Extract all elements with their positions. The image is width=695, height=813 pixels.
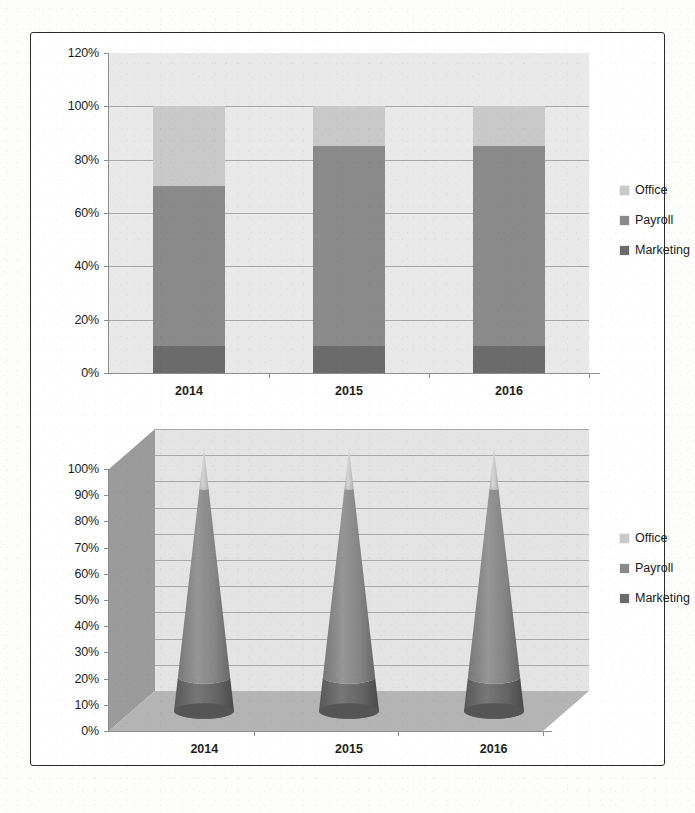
segment-payroll-2014[interactable] [153, 186, 225, 346]
legend-item-label: Payroll [635, 561, 673, 575]
legend-swatch-icon [619, 185, 630, 196]
x-axis-line [108, 373, 600, 374]
y-axis-tick-label: 0% [31, 724, 99, 738]
legend-item-label: Payroll [635, 213, 673, 227]
x-axis-tickmark [254, 731, 255, 736]
y-axis-line [108, 53, 109, 373]
legend-item-office[interactable]: Office [619, 531, 690, 545]
x-axis-tickmark [398, 731, 399, 736]
cone-2015[interactable] [319, 449, 379, 725]
legend-item-label: Office [635, 183, 667, 197]
legend-item-label: Marketing [635, 243, 690, 257]
y-axis-tick-label: 70% [31, 541, 99, 555]
y-axis-tick-label: 80% [31, 153, 99, 167]
y-axis-tick-label: 60% [31, 206, 99, 220]
legend-item-label: Marketing [635, 591, 690, 605]
y-axis-tick-label: 120% [31, 46, 99, 60]
column-2016[interactable] [473, 53, 545, 373]
legend-item-payroll[interactable]: Payroll [619, 213, 690, 227]
x-axis-tickmark [543, 731, 544, 736]
cone-2016[interactable] [464, 449, 524, 725]
y-axis-tick-label: 30% [31, 645, 99, 659]
legend-swatch-icon [619, 245, 630, 256]
segment-payroll-2015[interactable] [313, 146, 385, 346]
x-axis-tickmark [429, 373, 430, 378]
y-axis-tick-label: 20% [31, 672, 99, 686]
legend-item-marketing[interactable]: Marketing [619, 591, 690, 605]
chart-legend-top: OfficePayrollMarketing [619, 183, 690, 273]
legend-item-office[interactable]: Office [619, 183, 690, 197]
plot-area-top [109, 53, 589, 373]
x-axis-tickmark [589, 373, 590, 378]
y-axis-tick-label: 80% [31, 514, 99, 528]
segment-payroll-2016[interactable] [473, 146, 545, 346]
y-axis-tick-label: 40% [31, 619, 99, 633]
column-2015[interactable] [313, 53, 385, 373]
y-axis-tick-label: 40% [31, 259, 99, 273]
scanned-page: 0%20%40%60%80%100%120%201420152016Office… [0, 0, 695, 813]
y-axis-tick-label: 20% [31, 313, 99, 327]
x-axis-tick-label-2014: 2014 [190, 742, 218, 756]
x-axis-tick-label-2015: 2015 [335, 384, 363, 398]
x-axis-tick-label-2014: 2014 [175, 384, 203, 398]
segment-marketing-2016[interactable] [473, 346, 545, 373]
chart-legend-bottom: OfficePayrollMarketing [619, 531, 690, 621]
segment-marketing-2014[interactable] [153, 346, 225, 373]
legend-swatch-icon [619, 563, 630, 574]
y-axis-tick-label: 90% [31, 488, 99, 502]
segment-office-2014[interactable] [153, 106, 225, 186]
stacked-column-chart: 0%20%40%60%80%100%120%201420152016Office… [31, 33, 664, 403]
legend-swatch-icon [619, 593, 630, 604]
y-axis-tick-label: 0% [31, 366, 99, 380]
cone-2014[interactable] [174, 449, 234, 725]
y-axis-tick-label: 50% [31, 593, 99, 607]
y-axis-line [108, 469, 109, 731]
segment-office-2015[interactable] [313, 106, 385, 146]
x-axis-tick-label-2016: 2016 [495, 384, 523, 398]
y-axis-tick-label: 100% [31, 462, 99, 476]
y-axis-tick-label: 10% [31, 698, 99, 712]
legend-item-marketing[interactable]: Marketing [619, 243, 690, 257]
x-axis-line [108, 731, 552, 732]
x-axis-tickmark [269, 373, 270, 378]
legend-swatch-icon [619, 533, 630, 544]
legend-item-label: Office [635, 531, 667, 545]
column-2014[interactable] [153, 53, 225, 373]
plot-area-bottom [109, 429, 589, 731]
gridline-y [155, 429, 589, 430]
segment-marketing-2015[interactable] [313, 346, 385, 373]
x-axis-tick-label-2015: 2015 [335, 742, 363, 756]
legend-item-payroll[interactable]: Payroll [619, 561, 690, 575]
figure-border-box: 0%20%40%60%80%100%120%201420152016Office… [30, 32, 665, 766]
legend-swatch-icon [619, 215, 630, 226]
y-axis-tick-label: 60% [31, 567, 99, 581]
segment-office-2016[interactable] [473, 106, 545, 146]
y-axis-tick-label: 100% [31, 99, 99, 113]
x-axis-tick-label-2016: 2016 [480, 742, 508, 756]
